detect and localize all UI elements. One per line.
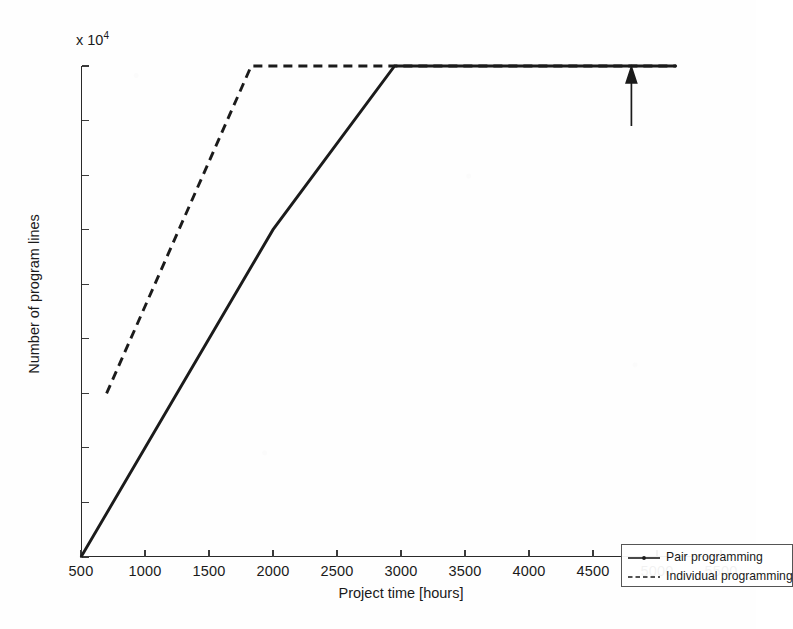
plot-area: 0.60.811.21.41.61.822.22.4 5001000150020…: [81, 66, 721, 557]
series-layer: [81, 66, 721, 557]
series-pair-programming-line: [81, 66, 676, 557]
y-axis-exponent: x 104: [76, 30, 109, 48]
x-tick-label: 1500: [192, 563, 225, 579]
legend-item-0: Pair programming: [627, 548, 787, 567]
series-point-marker: [394, 65, 396, 67]
legend-label-individual-programming: Individual programming: [666, 570, 793, 582]
annotation-up-arrow: [626, 67, 636, 126]
legend-dashed-line-icon: [627, 571, 661, 583]
series-point-marker: [80, 556, 82, 558]
x-tick-label: 3000: [384, 563, 417, 579]
y-axis-title: Number of program lines: [26, 174, 42, 414]
series-point-marker: [176, 392, 178, 394]
legend-solid-line-icon: [627, 552, 661, 564]
x-tick-label: 2000: [256, 563, 289, 579]
legend-label-pair-programming: Pair programming: [666, 551, 763, 563]
y-axis-exponent-mantissa: x 10: [76, 32, 103, 48]
x-tick-label: 4000: [512, 563, 545, 579]
series-individual-programming-line: [107, 66, 677, 393]
series-point-marker: [272, 229, 274, 231]
x-tick-label: 4500: [576, 563, 609, 579]
series-point-marker: [675, 65, 677, 67]
x-tick-label: 3500: [448, 563, 481, 579]
x-tick-label: 500: [69, 563, 94, 579]
y-axis-exponent-power: 4: [103, 30, 109, 41]
legend: Pair programming Individual programming: [621, 544, 793, 587]
x-axis-title: Project time [hours]: [81, 585, 721, 601]
x-tick-label: 1000: [128, 563, 161, 579]
x-tick-label: 2500: [320, 563, 353, 579]
legend-item-1: Individual programming: [627, 567, 787, 586]
annotation-layer: [80, 65, 677, 558]
